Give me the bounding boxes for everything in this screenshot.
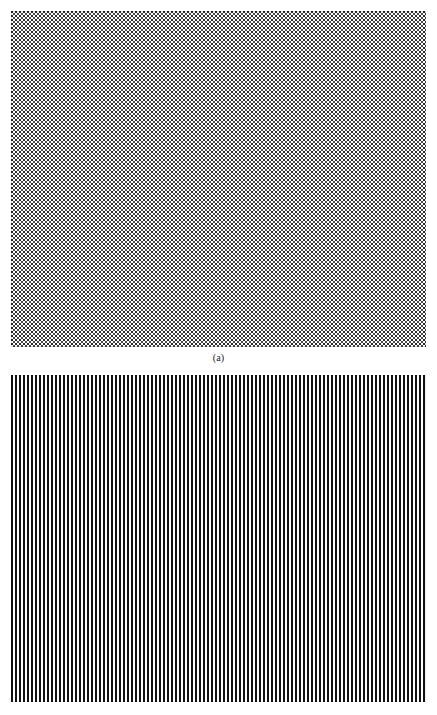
figure-sheet: (a) <box>0 0 437 715</box>
panel-a-caption: (a) <box>0 352 437 364</box>
panel-a-halftone-dot-pattern <box>11 11 426 347</box>
panel-b-vertical-line-grating <box>11 375 426 702</box>
